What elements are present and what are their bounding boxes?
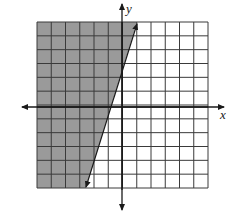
inequality-graph: x y bbox=[0, 0, 242, 220]
y-axis-label: y bbox=[124, 1, 132, 16]
x-axis-label: x bbox=[219, 107, 226, 122]
